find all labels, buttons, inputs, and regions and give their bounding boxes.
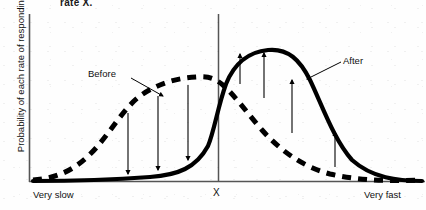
chart-canvas: [0, 0, 426, 210]
x-tick-label-x: X: [213, 187, 220, 198]
annotation-after: After: [343, 55, 363, 66]
before-curve: [33, 77, 420, 181]
after-leader-line: [307, 62, 341, 79]
figure-container: rate X.: [0, 0, 426, 210]
y-axis-label: Probability of each rate of responding: [15, 0, 26, 164]
up-arrows-group: [240, 53, 335, 167]
x-tick-label-very-slow: Very slow: [33, 189, 74, 200]
x-tick-label-very-fast: Very fast: [364, 189, 401, 200]
annotation-before: Before: [88, 68, 116, 79]
down-arrows-group: [128, 85, 188, 174]
